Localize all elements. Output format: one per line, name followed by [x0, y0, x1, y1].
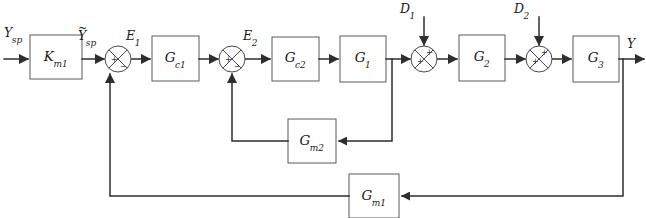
- block-label-g1: G1: [340, 51, 386, 68]
- block-label-gm1: Gm1: [349, 189, 399, 206]
- sum3-plus-left-sign: +: [417, 58, 424, 66]
- block-label-g2: G2: [459, 50, 505, 67]
- signal-label-ysp-measured: ~Ysp: [78, 30, 97, 46]
- sum4-plus-top-sign: +: [541, 49, 548, 57]
- signal-label-d1: D1: [400, 3, 416, 19]
- block-diagram-canvas: Km1 Gc1 Gc2 G1 G2 G3 Gm2 Gm1 Ysp ~Ysp E1…: [0, 0, 646, 218]
- sum4-plus-left-sign: +: [532, 58, 539, 66]
- summing-junction-2: [219, 46, 245, 72]
- sum2-minus-sign: −: [234, 63, 241, 71]
- block-label-g3: G3: [573, 51, 619, 68]
- signal-label-ysp: Ysp: [4, 27, 23, 43]
- signal-label-e2: E2: [243, 30, 258, 46]
- diagram-vector-layer: [0, 0, 646, 218]
- signal-label-e1: E1: [126, 30, 141, 46]
- signal-label-y-output: Y: [627, 38, 635, 51]
- summing-junction-1: [105, 46, 131, 72]
- sum3-plus-top-sign: +: [426, 49, 433, 57]
- sum2-plus-sign: +: [225, 56, 232, 64]
- summing-junction-3: [411, 46, 437, 72]
- wire-gm2-to-sum2: [232, 74, 288, 141]
- block-label-km1: Km1: [30, 50, 82, 67]
- block-label-gc2: Gc2: [272, 51, 319, 68]
- block-label-gm2: Gm2: [288, 134, 336, 151]
- tilde-accent: ~: [78, 23, 86, 34]
- sum1-plus-sign: +: [111, 56, 118, 64]
- summing-junction-4: [526, 46, 552, 72]
- sum1-minus-sign: −: [120, 63, 127, 71]
- block-label-gc1: Gc1: [152, 51, 199, 68]
- signal-label-d2: D2: [514, 3, 530, 19]
